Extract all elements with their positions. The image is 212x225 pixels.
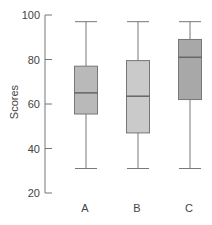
box-c <box>179 22 202 169</box>
y-tick-label: 20 <box>28 187 40 199</box>
boxes-group <box>75 22 202 169</box>
x-axis-labels: ABC <box>81 202 193 214</box>
box-a <box>75 22 98 169</box>
iqr-box <box>75 66 98 114</box>
y-tick-label: 60 <box>28 98 40 110</box>
box-plot-chart: 20406080100 Scores ABC <box>0 0 212 225</box>
y-axis: 20406080100 <box>22 9 52 199</box>
iqr-box <box>179 39 202 99</box>
y-tick-label: 80 <box>28 54 40 66</box>
x-category-label: C <box>185 202 193 214</box>
x-category-label: A <box>81 202 89 214</box>
x-category-label: B <box>133 202 140 214</box>
box-b <box>127 22 150 169</box>
y-tick-label: 100 <box>22 9 40 21</box>
y-tick-label: 40 <box>28 143 40 155</box>
y-axis-title: Scores <box>8 84 20 119</box>
